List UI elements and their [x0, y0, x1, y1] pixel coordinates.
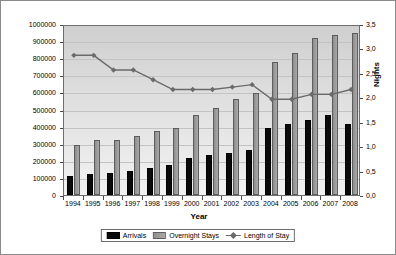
length-of-stay-marker — [210, 87, 215, 92]
y2-axis-tick — [360, 74, 363, 75]
y-axis-tick — [60, 59, 63, 60]
y-axis-tick-label: 800000 — [0, 55, 56, 62]
length-of-stay-marker — [329, 92, 334, 97]
length-of-stay-marker — [71, 53, 76, 58]
x-axis-tick — [340, 196, 341, 200]
y-axis-tick-label: 100000 — [0, 175, 56, 182]
x-axis-tick — [83, 196, 84, 200]
y-axis-tick — [60, 25, 63, 26]
plot-area — [63, 25, 360, 196]
x-axis-tick — [162, 196, 163, 200]
length-of-stay-swatch-icon — [226, 232, 241, 239]
legend-item-overnight-stays: Overnight Stays — [153, 232, 219, 239]
x-axis-tick — [320, 196, 321, 200]
y2-axis-tick-label: 1,5 — [366, 119, 392, 126]
y2-axis-tick-label: 2,0 — [366, 94, 392, 101]
length-of-stay-marker — [348, 87, 353, 92]
y2-axis-tick-label: 0,0 — [366, 192, 392, 199]
length-of-stay-marker — [190, 87, 195, 92]
x-axis-tick — [63, 196, 64, 200]
length-of-stay-polyline — [74, 55, 351, 99]
x-axis-tick-label: 2008 — [335, 200, 365, 208]
length-of-stay-marker — [150, 77, 155, 82]
x-axis-tick — [103, 196, 104, 200]
y-axis-tick-label: 900000 — [0, 38, 56, 45]
y-axis-tick-label: 200000 — [0, 158, 56, 165]
y-axis-tick — [60, 145, 63, 146]
y2-axis-tick — [360, 49, 363, 50]
x-axis-tick — [202, 196, 203, 200]
length-of-stay-marker — [131, 67, 136, 72]
chart-frame: 0100000200000300000400000500000600000700… — [0, 0, 396, 255]
y-axis-tick-label: 0 — [0, 192, 56, 199]
y-axis-tick-label: 700000 — [0, 72, 56, 79]
y2-axis-tick — [360, 172, 363, 173]
y-axis-tick-label: 600000 — [0, 89, 56, 96]
length-of-stay-marker — [309, 92, 314, 97]
y-axis-tick — [60, 162, 63, 163]
y-axis-tick — [60, 93, 63, 94]
y-axis-tick — [60, 42, 63, 43]
x-axis-tick — [301, 196, 302, 200]
y2-axis-tick — [360, 25, 363, 26]
x-axis-tick — [142, 196, 143, 200]
y-axis-tick-label: 500000 — [0, 107, 56, 114]
length-of-stay-marker — [170, 87, 175, 92]
y-axis-tick-label: 300000 — [0, 141, 56, 148]
overnight-stays-swatch-icon — [153, 232, 166, 239]
x-axis-tick — [122, 196, 123, 200]
x-axis-tick — [261, 196, 262, 200]
y2-axis-tick-label: 3,0 — [366, 45, 392, 52]
y2-axis-tick-label: 0,5 — [366, 168, 392, 175]
x-axis-tick — [241, 196, 242, 200]
legend-label-overnight-stays: Overnight Stays — [169, 232, 219, 239]
y2-axis-tick — [360, 196, 363, 197]
y-axis-right-title: Nights — [372, 62, 381, 87]
x-axis-tick — [182, 196, 183, 200]
legend-item-arrivals: Arrivals — [107, 232, 146, 239]
y-axis-tick — [60, 179, 63, 180]
y-axis-tick — [60, 128, 63, 129]
y-axis-tick-label: 1000000 — [0, 21, 56, 28]
legend-label-length-of-stay: Length of Stay — [244, 232, 289, 239]
legend-label-arrivals: Arrivals — [123, 232, 146, 239]
x-axis-title: Year — [1, 212, 396, 221]
x-axis-tick — [281, 196, 282, 200]
y-axis-tick — [60, 76, 63, 77]
y2-axis-tick — [360, 147, 363, 148]
y-axis-tick-label: 400000 — [0, 124, 56, 131]
length-of-stay-line — [64, 26, 360, 196]
length-of-stay-marker — [289, 97, 294, 102]
y2-axis-tick — [360, 98, 363, 99]
length-of-stay-marker — [230, 84, 235, 89]
x-axis-tick — [221, 196, 222, 200]
arrivals-swatch-icon — [107, 232, 120, 239]
y2-axis-tick — [360, 123, 363, 124]
y-axis-tick — [60, 111, 63, 112]
legend-item-length-of-stay: Length of Stay — [226, 232, 289, 239]
y2-axis-tick-label: 1,0 — [366, 143, 392, 150]
y2-axis-tick-label: 3,5 — [366, 21, 392, 28]
chart-legend: Arrivals Overnight Stays Length of Stay — [101, 229, 295, 242]
